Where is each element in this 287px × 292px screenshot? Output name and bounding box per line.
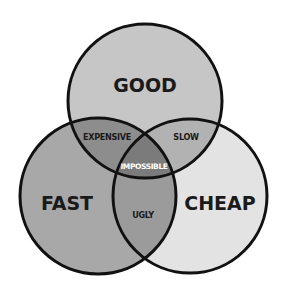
label-impossible: IMPOSSIBLE [120, 162, 167, 171]
label-slow: SLOW [173, 132, 199, 142]
label-expensive: EXPENSIVE [83, 132, 131, 142]
label-good: GOOD [113, 74, 177, 96]
label-ugly: UGLY [132, 210, 154, 220]
label-cheap: CHEAP [184, 192, 256, 214]
label-fast: FAST [41, 192, 93, 214]
venn-diagram: GOOD FAST CHEAP EXPENSIVE SLOW UGLY IMPO… [0, 0, 287, 292]
